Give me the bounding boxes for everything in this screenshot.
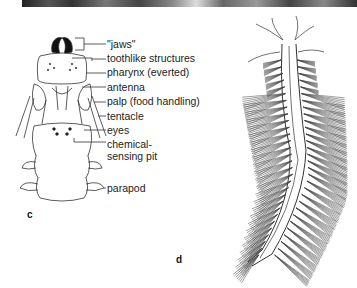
label-antenna: antenna bbox=[107, 82, 145, 93]
panel-letter-d: d bbox=[176, 254, 182, 265]
label-tentacle: tentacle bbox=[107, 111, 144, 122]
label-pharynx: pharynx (everted) bbox=[107, 67, 189, 78]
illustration-canvas bbox=[0, 0, 357, 288]
panel-letter-c: c bbox=[27, 209, 33, 220]
label-eyes: eyes bbox=[107, 125, 129, 136]
label-chemical: chemical- bbox=[107, 139, 152, 150]
head-illustration bbox=[16, 38, 106, 201]
label-palp: palp (food handling) bbox=[107, 96, 200, 107]
label-parapod: parapod bbox=[107, 183, 146, 194]
label-sensing-pit: sensing pit bbox=[107, 151, 157, 162]
label-jaws: "jaws" bbox=[107, 39, 135, 50]
label-toothlike-structures: toothlike structures bbox=[107, 53, 195, 64]
